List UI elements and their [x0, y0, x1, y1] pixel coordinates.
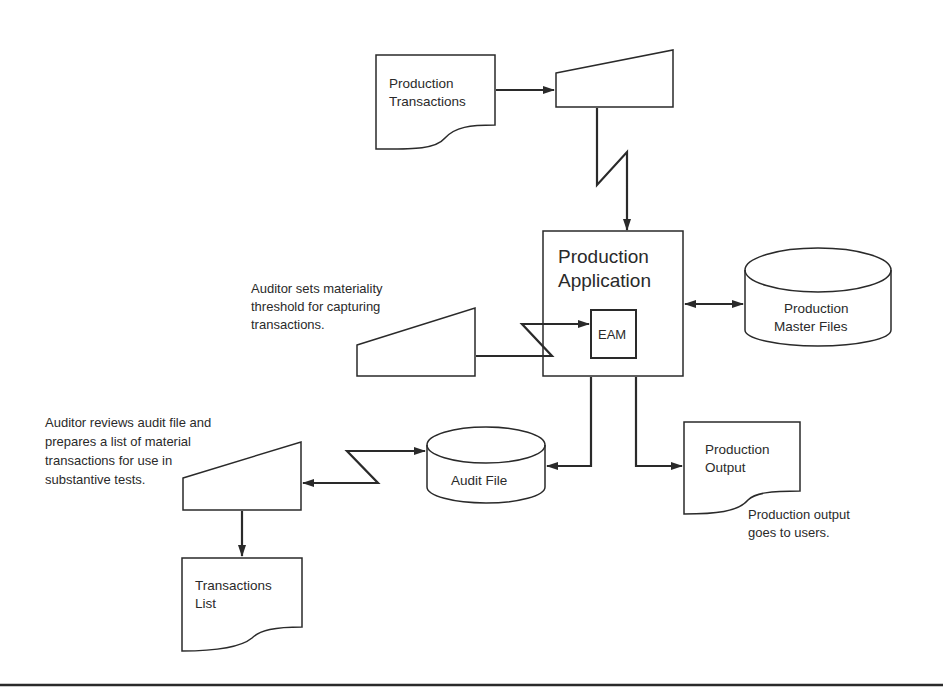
eam-label: EAM	[598, 327, 626, 342]
output-annotation: Production output goes to users.	[748, 507, 854, 540]
input-terminal-top	[556, 50, 673, 107]
flowchart-canvas: Production Transactions Production Appli…	[0, 0, 943, 687]
arrow-application-to-audit-file	[547, 377, 591, 466]
input-terminal-materiality	[357, 308, 475, 376]
review-terminal	[183, 442, 301, 510]
production-transactions-label: Production Transactions	[389, 76, 466, 109]
materiality-annotation: Auditor sets materiality threshold for c…	[251, 281, 386, 332]
comm-link-terminal-to-eam	[476, 324, 589, 356]
comm-link-terminal-to-application	[597, 108, 627, 230]
audit-file-cylinder	[427, 427, 545, 503]
arrow-application-to-output	[636, 377, 682, 466]
master-files-label: Production Master Files	[774, 301, 852, 334]
transactions-list-label: Transactions List	[195, 578, 276, 611]
production-application-label: Production Application	[558, 246, 654, 291]
comm-link-audit-file-review	[303, 451, 425, 483]
audit-file-label: Audit File	[451, 473, 507, 488]
production-output-label: Production Output	[705, 442, 773, 475]
